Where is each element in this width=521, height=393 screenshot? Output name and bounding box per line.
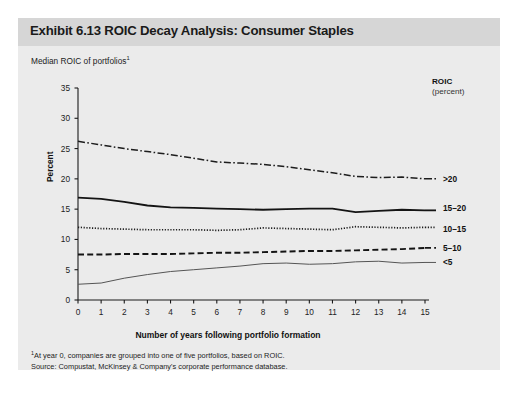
x-tick-label: 8 <box>253 307 273 317</box>
x-tick-label: 5 <box>184 307 204 317</box>
figure-page: Exhibit 6.13 ROIC Decay Analysis: Consum… <box>0 0 521 393</box>
footnotes: 1At year 0, companies are grouped into o… <box>31 348 288 372</box>
x-tick-label: 0 <box>68 307 88 317</box>
y-tick-label: 20 <box>50 174 70 184</box>
y-tick-label: 25 <box>50 144 70 154</box>
x-tick-label: 2 <box>114 307 134 317</box>
y-tick-label: 15 <box>50 204 70 214</box>
legend-label-15-20: 15–20 <box>443 203 466 213</box>
y-tick-label: 0 <box>50 295 70 305</box>
legend-label-10-15: 10–15 <box>443 224 466 234</box>
plot-area <box>18 18 500 370</box>
footnote-source: Source: Compustat, McKinsey & Company's … <box>31 362 288 373</box>
x-tick-label: 3 <box>137 307 157 317</box>
y-tick-label: 10 <box>50 234 70 244</box>
series-line-10-15 <box>78 227 425 231</box>
y-tick-label: 5 <box>50 265 70 275</box>
series-line-15-20 <box>78 198 425 213</box>
series-line-5-10 <box>78 248 425 255</box>
footnote-1: 1At year 0, companies are grouped into o… <box>31 348 288 362</box>
series-line-20 <box>78 141 425 179</box>
footnote-1-text: At year 0, companies are grouped into on… <box>34 351 285 360</box>
x-tick-label: 10 <box>299 307 319 317</box>
y-tick-label: 30 <box>50 113 70 123</box>
legend-label-20: >20 <box>443 174 457 184</box>
x-tick-label: 9 <box>276 307 296 317</box>
exhibit-panel: Exhibit 6.13 ROIC Decay Analysis: Consum… <box>18 18 500 370</box>
y-tick-label: 35 <box>50 83 70 93</box>
x-tick-label: 1 <box>91 307 111 317</box>
x-tick-label: 6 <box>207 307 227 317</box>
chart-svg <box>18 18 500 370</box>
x-tick-label: 14 <box>392 307 412 317</box>
x-tick-label: 4 <box>161 307 181 317</box>
x-tick-label: 11 <box>322 307 342 317</box>
x-tick-label: 12 <box>346 307 366 317</box>
series-line-5 <box>78 261 425 284</box>
x-tick-label: 7 <box>230 307 250 317</box>
legend-label-5-10: 5–10 <box>443 243 461 253</box>
x-tick-label: 15 <box>415 307 435 317</box>
x-tick-label: 13 <box>369 307 389 317</box>
legend-label-5: <5 <box>443 257 452 267</box>
